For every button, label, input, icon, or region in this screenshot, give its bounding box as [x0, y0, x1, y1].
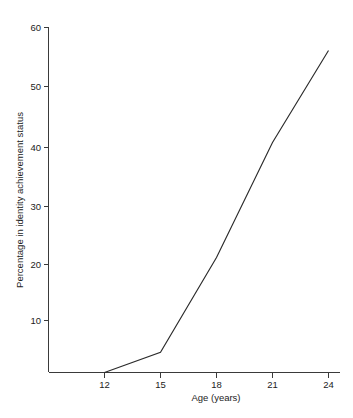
data-series-line — [105, 51, 329, 373]
y-axis-title: Percentage in identity achievement statu… — [14, 112, 25, 288]
y-tick-label-60: 60 — [30, 22, 41, 33]
x-tick-label-24: 24 — [323, 379, 334, 390]
x-tick-label-18: 18 — [211, 379, 222, 390]
y-tick-label-10: 10 — [30, 315, 41, 326]
y-tick-label-20: 20 — [30, 259, 41, 270]
x-tick-label-21: 21 — [267, 379, 278, 390]
x-tick-label-15: 15 — [155, 379, 166, 390]
y-tick-label-40: 40 — [30, 142, 41, 153]
x-tick-label-12: 12 — [99, 379, 110, 390]
x-axis-title: Age (years) — [191, 392, 240, 403]
chart-figure: 60 50 40 30 20 10 12 15 18 21 24 Age (ye… — [0, 0, 353, 418]
y-tick-label-30: 30 — [30, 201, 41, 212]
line-chart-canvas: 60 50 40 30 20 10 12 15 18 21 24 Age (ye… — [0, 0, 353, 418]
y-tick-label-50: 50 — [30, 81, 41, 92]
